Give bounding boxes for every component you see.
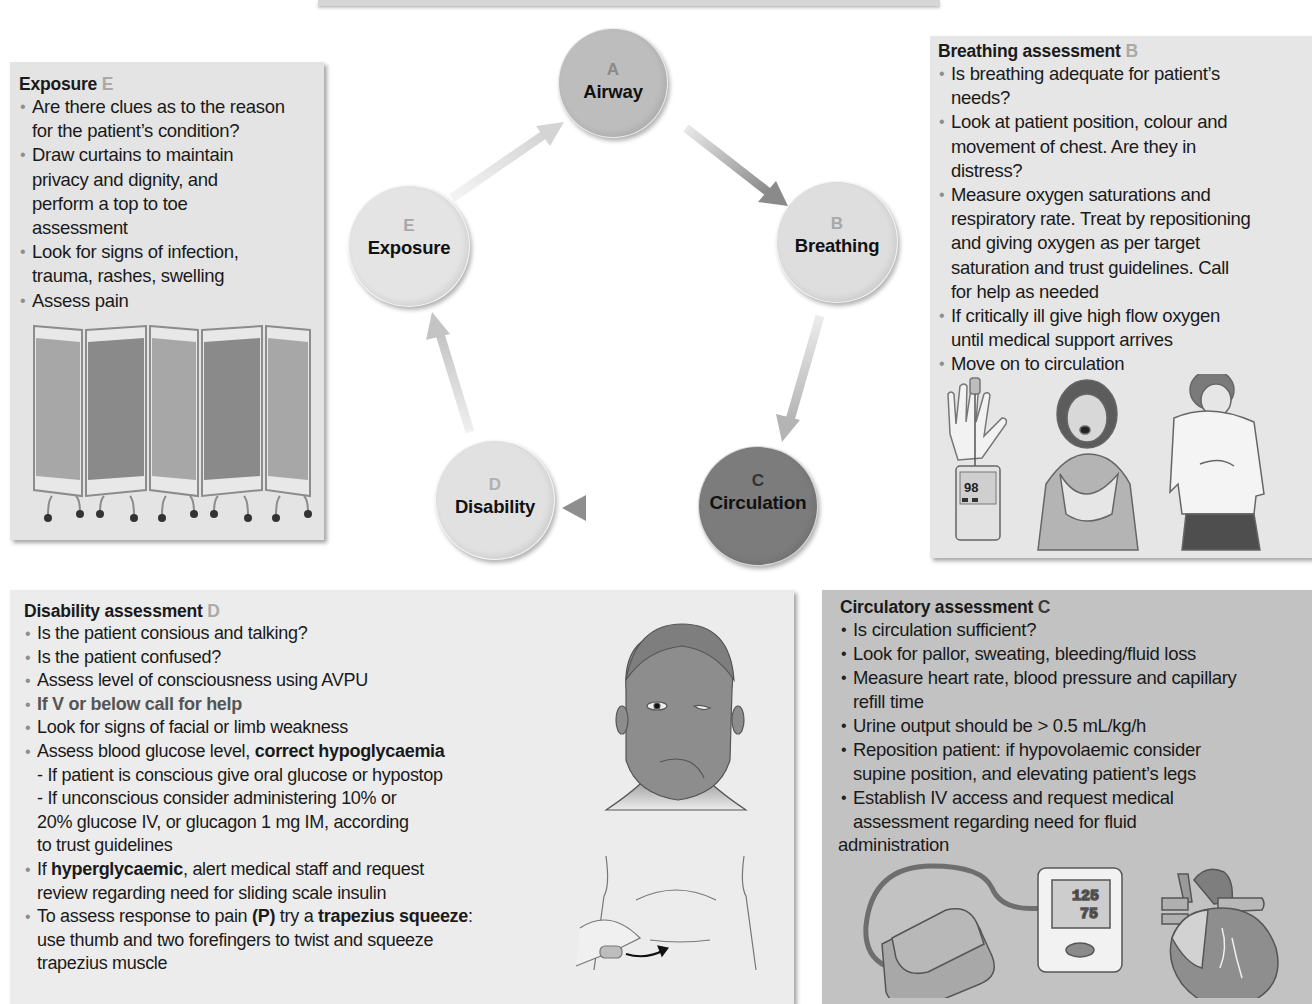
bullet-item: Measure heart rate, blood pressure and c… <box>840 666 1306 714</box>
disability-panel: Disability assessment D Is the patient c… <box>10 590 794 1004</box>
node-breathing: B Breathing <box>776 181 898 303</box>
bp-cuff-icon <box>866 866 1042 998</box>
panel-title: Breathing assessment B <box>938 40 1306 62</box>
node-exposure: E Exposure <box>348 185 470 307</box>
node-airway: A Airway <box>558 28 668 138</box>
breathing-illustration: 98 <box>942 374 1302 552</box>
title-text: Exposure <box>19 74 97 94</box>
node-label: Exposure <box>349 236 469 260</box>
svg-text:125: 125 <box>1072 888 1099 905</box>
hand-with-probe-icon <box>948 378 1007 466</box>
node-label: Disability <box>436 495 554 519</box>
svg-text:98: 98 <box>964 480 978 495</box>
bullet-item: Reposition patient: if hypovolaemic cons… <box>840 738 1306 786</box>
node-letter: D <box>436 475 554 495</box>
bullet-item: Assess pain <box>19 289 316 313</box>
bullet-item: If critically ill give high flow oxygenu… <box>938 304 1306 352</box>
circulation-illustration: 125 75 <box>842 858 1302 998</box>
node-circulation: C Circulation <box>698 446 818 566</box>
bullet-item: Measure oxygen saturations andrespirator… <box>938 183 1306 304</box>
node-letter: A <box>559 60 667 80</box>
circulatory-panel: Circulatory assessment C Is circulation … <box>822 590 1312 1004</box>
woman-breathless-figure <box>1038 380 1138 550</box>
title-text: Circulatory assessment <box>840 597 1033 617</box>
bullet-list: Is circulation sufficient? Look for pall… <box>840 618 1306 834</box>
heart-icon <box>1162 869 1278 998</box>
bullet-item: Look at patient position, colour andmove… <box>938 110 1306 183</box>
bullet-item: Establish IV access and request medicala… <box>840 786 1306 834</box>
title-text: Breathing assessment <box>938 41 1121 61</box>
node-letter: E <box>349 216 469 236</box>
face-droop-figure <box>606 624 746 810</box>
svg-text:75: 75 <box>1080 906 1098 923</box>
man-chest-pain-figure <box>1170 374 1264 550</box>
title-letter: C <box>1038 597 1050 617</box>
arrow-circulation-to-disability <box>562 495 688 521</box>
arrow-breathing-to-circulation <box>776 316 820 442</box>
node-letter: B <box>777 214 897 234</box>
panel-title: Exposure E <box>19 73 316 95</box>
node-letter: C <box>699 471 817 491</box>
node-label: Circulation <box>699 491 817 515</box>
bullet-item: Look for signs of infection,trauma, rash… <box>19 240 316 288</box>
node-label: Airway <box>559 80 667 104</box>
bp-monitor-icon: 125 75 <box>1038 868 1122 972</box>
bullet-item: Is circulation sufficient? <box>840 618 1306 642</box>
node-label: Breathing <box>777 234 897 258</box>
title-text: Disability assessment <box>24 601 203 621</box>
title-letter: B <box>1125 41 1137 61</box>
bullet-list: Are there clues as to the reasonfor the … <box>19 95 316 313</box>
arrow-airway-to-breathing <box>686 128 788 206</box>
bullet-list: Is breathing adequate for patient’sneeds… <box>938 62 1306 377</box>
bullet-item: Is breathing adequate for patient’sneeds… <box>938 62 1306 110</box>
facial-weakness-illustration <box>566 610 776 1002</box>
arrow-disability-to-exposure <box>426 312 470 432</box>
pulse-oximeter-icon: 98 <box>956 466 1000 540</box>
breathing-panel: Breathing assessment B Is breathing adeq… <box>930 36 1312 558</box>
bullet-item: Look for pallor, sweating, bleeding/flui… <box>840 642 1306 666</box>
title-letter: D <box>207 601 219 621</box>
exposure-panel: Exposure E Are there clues as to the rea… <box>10 62 324 540</box>
bullet-item: Urine output should be > 0.5 mL/kg/h <box>840 714 1306 738</box>
arrow-exposure-to-airway <box>452 122 564 198</box>
bullet-item: Draw curtains to maintainprivacy and dig… <box>19 143 316 240</box>
bullet-item: Are there clues as to the reasonfor the … <box>19 95 316 143</box>
node-disability: D Disability <box>435 440 555 560</box>
trapezius-squeeze-figure <box>576 856 756 970</box>
bullet-item: Move on to circulation <box>938 352 1306 376</box>
panel-title: Circulatory assessment C <box>840 596 1306 618</box>
privacy-screen-illustration <box>18 320 314 530</box>
title-letter: E <box>102 74 113 94</box>
trailing-line: administration <box>838 834 1306 856</box>
